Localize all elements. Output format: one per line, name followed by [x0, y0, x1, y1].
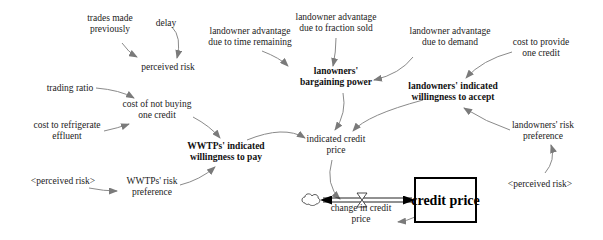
stock-label: credit price: [411, 193, 480, 208]
link-landowner-adv-time-to-lanowners-bargaining-power: [262, 51, 288, 66]
node-delay[interactable]: delay: [156, 18, 177, 28]
node-label-line: cost of not buying: [123, 99, 192, 109]
variable-nodes: trades madepreviouslydelayperceived risk…: [31, 12, 574, 224]
node-label-line: landowner advantage: [296, 12, 377, 22]
node-cost-not-buying[interactable]: cost of not buyingone credit: [123, 99, 192, 120]
node-label-line: <perceived risk>: [508, 179, 572, 189]
node-label-line: change in credit: [331, 203, 392, 213]
link-cost-refrigerate-to-cost-not-buying: [104, 124, 129, 131]
node-label-line: landowners' risk: [512, 120, 574, 130]
link-landowner-adv-fraction-to-lanowners-bargaining-power: [333, 38, 336, 66]
link-trading-ratio-to-cost-not-buying: [96, 88, 134, 98]
node-label-line: landowner advantage: [210, 26, 291, 36]
node-label-line: lanowners': [314, 66, 358, 76]
node-label-line: perceived risk: [141, 62, 195, 72]
node-change-in-credit-price[interactable]: change in creditprice: [331, 203, 392, 224]
node-label-line: preference: [132, 187, 172, 197]
link-perceived-risk-shadow-left-to-wwtps-risk-pref: [89, 188, 117, 191]
node-landowner-adv-demand[interactable]: landowner advantagedue to demand: [410, 26, 491, 47]
node-perceived-risk-shadow-left[interactable]: <perceived risk>: [31, 176, 95, 186]
node-perceived-risk-top[interactable]: perceived risk: [141, 62, 195, 72]
node-label-line: landowner advantage: [410, 26, 491, 36]
node-label-line: one credit: [138, 110, 176, 120]
node-landowner-adv-time[interactable]: landowner advantagedue to time remaining: [208, 26, 292, 47]
node-label-line: previously: [90, 24, 130, 34]
node-label-line: WWTPs' risk: [126, 176, 177, 186]
node-label-line: cost to provide: [513, 37, 569, 47]
node-label-line: delay: [156, 18, 177, 28]
node-label-line: landowners' indicated: [408, 81, 498, 91]
node-perceived-risk-shadow-right[interactable]: <perceived risk>: [508, 179, 572, 189]
node-label-line: cost to refrigerate: [34, 120, 101, 130]
node-label-line: due to demand: [422, 37, 478, 47]
node-landowners-willingness-accept[interactable]: landowners' indicatedwillingness to acce…: [408, 81, 498, 102]
link-stock-to-change-in-credit-price: [398, 217, 415, 222]
node-cost-to-provide[interactable]: cost to provideone credit: [513, 37, 569, 58]
node-wwtps-willingness-pay[interactable]: WWTPs' indicatedwillingness to pay: [187, 141, 265, 162]
link-cost-to-provide-to-landowners-willingness-accept: [466, 52, 512, 78]
link-landowners-willingness-accept-to-indicated-credit-price: [353, 100, 423, 131]
node-label-line: preference: [523, 131, 563, 141]
link-trades-made-previously-to-perceived-risk-top: [122, 43, 137, 57]
node-lanowners-bargaining-power[interactable]: lanowners'bargaining power: [300, 66, 373, 87]
node-label-line: price: [327, 145, 346, 155]
node-label-line: willingness to pay: [190, 152, 262, 162]
link-delay-to-perceived-risk-top: [172, 27, 179, 58]
node-label-line: effluent: [52, 131, 82, 141]
link-cost-not-buying-to-wwtps-willingness-pay: [193, 117, 220, 138]
node-cost-refrigerate[interactable]: cost to refrigerateeffluent: [34, 120, 101, 141]
link-wwtps-risk-pref-to-wwtps-willingness-pay: [180, 167, 215, 185]
link-wwtps-willingness-pay-to-indicated-credit-price: [247, 132, 305, 140]
node-trading-ratio[interactable]: trading ratio: [47, 83, 94, 93]
node-landowners-risk-pref[interactable]: landowners' riskpreference: [512, 120, 574, 141]
link-landowners-risk-pref-to-landowners-willingness-accept: [464, 108, 510, 130]
cloud-icon: [302, 194, 320, 206]
node-label-line: trading ratio: [47, 83, 94, 93]
node-landowner-adv-fraction[interactable]: landowner advantagedue to fraction sold: [296, 12, 377, 33]
link-indicated-credit-price-to-change-in-credit-price: [330, 160, 340, 199]
node-wwtps-risk-pref[interactable]: WWTPs' riskpreference: [126, 176, 177, 197]
node-label-line: price: [352, 214, 371, 224]
node-label-line: bargaining power: [300, 77, 373, 87]
node-label-line: WWTPs' indicated: [187, 141, 265, 151]
node-label-line: trades made: [87, 13, 133, 23]
stock-flow-diagram: credit price trades madepreviouslydelayp…: [0, 0, 603, 240]
node-indicated-credit-price[interactable]: indicated creditprice: [307, 134, 366, 155]
node-label-line: willingness to accept: [412, 92, 496, 102]
link-lanowners-bargaining-power-to-indicated-credit-price: [335, 93, 344, 130]
stock-credit-price[interactable]: credit price: [411, 178, 480, 222]
node-label-line: indicated credit: [307, 134, 366, 144]
link-perceived-risk-shadow-right-to-landowners-risk-pref: [545, 145, 553, 173]
link-landowner-adv-demand-to-lanowners-bargaining-power: [374, 57, 413, 80]
node-label-line: <perceived risk>: [31, 176, 95, 186]
node-label-line: due to time remaining: [208, 37, 292, 47]
node-trades-made-previously[interactable]: trades madepreviously: [87, 13, 133, 34]
node-label-line: due to fraction sold: [299, 23, 373, 33]
node-label-line: one credit: [522, 48, 560, 58]
